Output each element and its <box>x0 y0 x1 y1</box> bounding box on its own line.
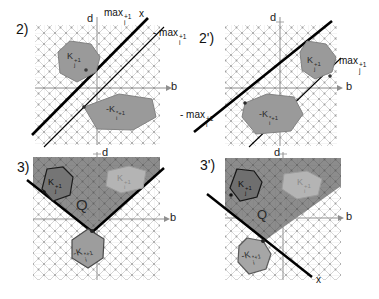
p3p-polygon-K-right-label: K+1i <box>297 178 311 194</box>
p3p-d-axis-label: d <box>274 147 280 158</box>
p2-polygon-negK-lower-label: -K*+1i <box>106 105 125 121</box>
p2p-polygon-negK-lower-label: -K*+1i <box>259 110 278 126</box>
panel-2 <box>32 17 172 147</box>
label-base: K <box>48 177 54 187</box>
label-sub: i <box>85 257 88 262</box>
panel-2prime <box>194 17 343 147</box>
p3p-polygon-K-left-label: K+1j <box>238 180 252 196</box>
label-sub: i <box>116 116 117 121</box>
label-base: K <box>238 179 244 189</box>
p3p-tangent-point-left <box>229 193 233 197</box>
label-sub: j <box>245 191 246 196</box>
label-base: K <box>67 51 73 61</box>
panel-3 <box>27 152 170 280</box>
p2p-tangent-point-lower <box>243 101 247 105</box>
p2p-neg-max-line-label: - max+1i <box>180 110 214 127</box>
p2-max-line-label: max+1i <box>104 8 131 25</box>
label-sub: i <box>253 260 255 265</box>
p3-polygon-K-right-label: K+1i <box>117 174 131 190</box>
p2-tangent-point-lower <box>82 105 86 109</box>
panel-3prime <box>207 152 344 280</box>
label-base: K <box>297 177 303 187</box>
p3-panel-number: 3) <box>17 160 29 174</box>
label-sub: j <box>55 189 56 194</box>
label-base: - max <box>153 27 178 38</box>
p3p-b-axis-label: b <box>346 211 352 222</box>
p2-x-line-label: x <box>139 9 144 19</box>
label-sub: i <box>269 121 270 126</box>
p3-d-axis-label: d <box>102 147 108 158</box>
label-base: K <box>307 55 313 65</box>
label-sub: i <box>179 40 180 45</box>
label-sub: j <box>359 68 360 73</box>
p3-polygon-K-left-label: K+1j <box>48 178 62 194</box>
p3p-cone-apex-point <box>261 239 265 243</box>
p3-Q-region-label: Q <box>76 197 88 212</box>
p2-b-axis-label: b <box>171 81 177 92</box>
label-sub: j <box>314 67 315 72</box>
p2-panel-number: 2) <box>16 22 28 36</box>
p3-b-axis-label: b <box>170 212 176 223</box>
label-sub: j <box>74 63 75 68</box>
p2p-b-axis-arrow-icon <box>337 85 343 91</box>
label-base: - max <box>180 109 205 120</box>
label-sub: i <box>124 20 125 25</box>
p3p-Q-region-label: Q <box>257 208 267 221</box>
label-sub: i <box>124 185 125 190</box>
label-sub: i <box>304 189 305 194</box>
label-base: -K <box>240 249 251 261</box>
p2p-polygon-K-upper-label: K+1j <box>307 56 321 72</box>
label-base: K <box>117 173 123 183</box>
label-base: -K <box>259 109 268 119</box>
p3p-panel-number: 3') <box>200 158 215 172</box>
p2p-tangent-point-upper <box>328 74 332 78</box>
p3-tangent-point-left <box>42 190 46 194</box>
p3p-x-line-label: x <box>316 275 321 285</box>
label-base: -K <box>72 246 83 258</box>
p2-tangent-point-upper <box>84 68 88 72</box>
p2-polygon-K-upper-label: K+1j <box>67 52 81 68</box>
label-base: -K <box>106 104 115 114</box>
p2p-d-axis-label: d <box>270 12 276 23</box>
label-sup: *+1 <box>269 116 278 121</box>
diagram-canvas <box>0 0 379 299</box>
math-figure: 2) d max+1i x - max+1i b K+1j -K*+1i 2')… <box>0 0 379 299</box>
label-sup: *+1 <box>116 111 125 116</box>
p2p-panel-number: 2') <box>199 31 214 45</box>
label-base: max <box>339 55 358 66</box>
p2p-b-axis-label: b <box>346 81 352 92</box>
label-base: max <box>104 7 123 18</box>
label-sub: i <box>206 122 207 127</box>
p2-neg-max-line-label: - max+1i <box>153 28 187 45</box>
p2p-max-line-label: max+1j <box>339 56 366 73</box>
p3-cone-apex-point <box>90 229 94 233</box>
p2-d-axis-label: d <box>87 13 93 24</box>
